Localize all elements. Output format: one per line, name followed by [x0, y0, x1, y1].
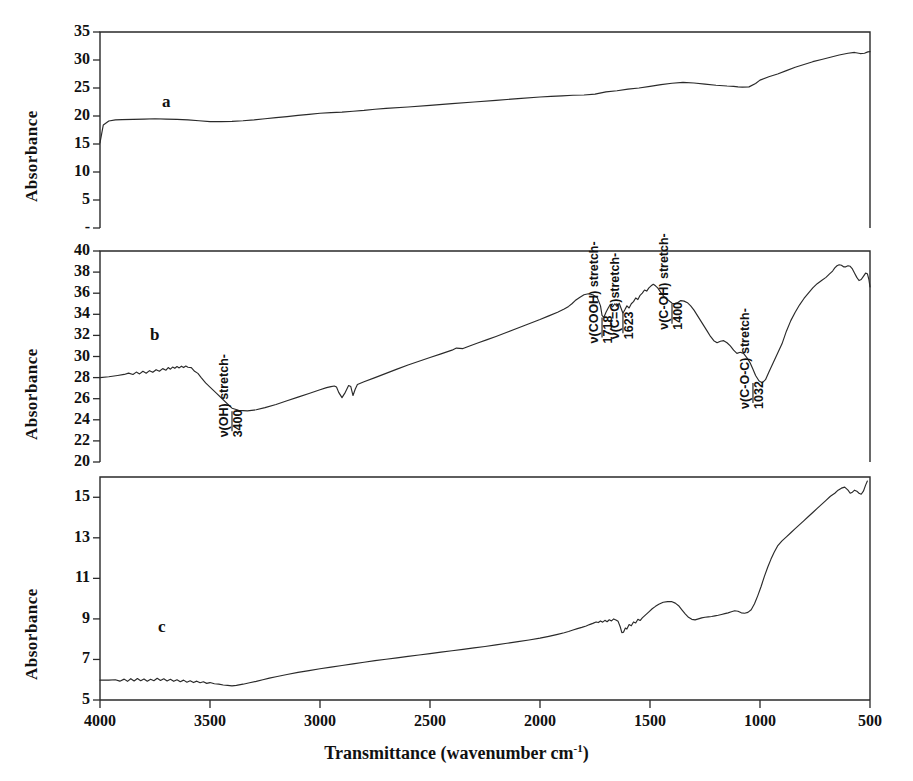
x-tick-label: 3000: [285, 712, 355, 730]
x-axis-title: Transmittance (wavenumber cm-1): [0, 742, 913, 764]
plot-frame: [100, 477, 870, 700]
figure-root: Absorbance a -5101520253035 Absorbance b…: [0, 0, 913, 781]
x-tick-label: 1500: [615, 712, 685, 730]
x-tick-label: 1000: [725, 712, 795, 730]
spectrum-trace: [100, 481, 867, 686]
x-tick-label: 2500: [395, 712, 465, 730]
panel-c-plot: [0, 0, 913, 781]
x-axis-title-main: Transmittance (wavenumber cm: [324, 743, 573, 763]
x-tick-label: 3500: [175, 712, 245, 730]
x-tick-label: 2000: [505, 712, 575, 730]
x-tick-label: 500: [835, 712, 905, 730]
x-tick-label: 4000: [65, 712, 135, 730]
x-axis-title-superscript: -1: [574, 742, 583, 754]
x-axis-title-tail: ): [583, 743, 589, 763]
